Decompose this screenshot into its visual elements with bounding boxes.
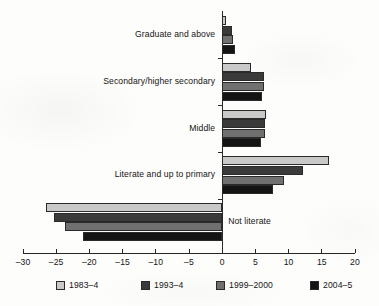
bar <box>222 63 251 72</box>
bar <box>222 72 264 81</box>
x-axis-tick <box>355 249 356 253</box>
bar <box>83 232 222 241</box>
legend-swatch <box>141 281 150 290</box>
legend-item: 1999–2000 <box>216 281 273 290</box>
x-axis-tick-label: –30 <box>8 258 38 267</box>
x-axis-tick <box>189 249 190 253</box>
x-axis-tick-label: –15 <box>108 258 138 267</box>
legend-label: 2004–5 <box>323 281 352 290</box>
bar <box>222 45 235 54</box>
plot-area: Graduate and aboveSecondary/higher secon… <box>0 0 379 306</box>
bar <box>222 26 232 35</box>
bar <box>222 138 261 147</box>
x-axis-tick-label: –10 <box>141 258 171 267</box>
x-axis-tick-label: –5 <box>174 258 204 267</box>
bar <box>65 222 222 231</box>
chart-legend: 1983–41993–41999–20002004–5 <box>0 278 379 294</box>
x-axis-tick <box>321 249 322 253</box>
bar <box>222 166 303 175</box>
legend-label: 1999–2000 <box>229 281 273 290</box>
x-axis-tick-label: –25 <box>41 258 71 267</box>
x-axis-tick <box>89 249 90 253</box>
x-axis-tick-label: 0 <box>207 258 237 267</box>
x-axis-tick <box>155 249 156 253</box>
x-axis-tick-label: 10 <box>274 258 304 267</box>
legend-label: 1993–4 <box>154 281 183 290</box>
category-label: Secondary/higher secondary <box>103 77 215 86</box>
grouped-bar-chart: Graduate and aboveSecondary/higher secon… <box>0 0 379 306</box>
x-axis-tick <box>23 249 24 253</box>
category-label: Middle <box>189 124 215 133</box>
zero-axis-line <box>222 11 223 253</box>
x-axis-line <box>23 253 355 254</box>
x-axis-tick-label: 5 <box>240 258 270 267</box>
x-axis-tick-label: 20 <box>340 258 370 267</box>
bar <box>222 82 264 91</box>
x-axis-tick-label: 15 <box>307 258 337 267</box>
category-label: Literate and up to primary <box>115 170 216 179</box>
legend-swatch <box>310 281 319 290</box>
x-axis-tick <box>255 249 256 253</box>
bar <box>46 203 222 212</box>
legend-item: 2004–5 <box>310 281 352 290</box>
bar <box>222 156 329 165</box>
x-axis-tick <box>56 249 57 253</box>
bar <box>222 129 264 138</box>
bar <box>54 213 223 222</box>
x-axis-tick <box>222 249 223 253</box>
x-axis-tick <box>122 249 123 253</box>
x-axis-tick <box>288 249 289 253</box>
legend-swatch <box>56 281 65 290</box>
legend-item: 1993–4 <box>141 281 183 290</box>
bar <box>222 176 284 185</box>
legend-item: 1983–4 <box>56 281 98 290</box>
bar <box>222 16 226 25</box>
legend-swatch <box>216 281 225 290</box>
bar <box>222 110 266 119</box>
bar <box>222 92 262 101</box>
category-label: Graduate and above <box>135 30 215 39</box>
bar <box>222 185 272 194</box>
legend-label: 1983–4 <box>69 281 98 290</box>
x-axis-tick-label: –20 <box>74 258 104 267</box>
bar <box>222 119 265 128</box>
bar <box>222 35 233 44</box>
category-label: Not literate <box>228 217 271 226</box>
